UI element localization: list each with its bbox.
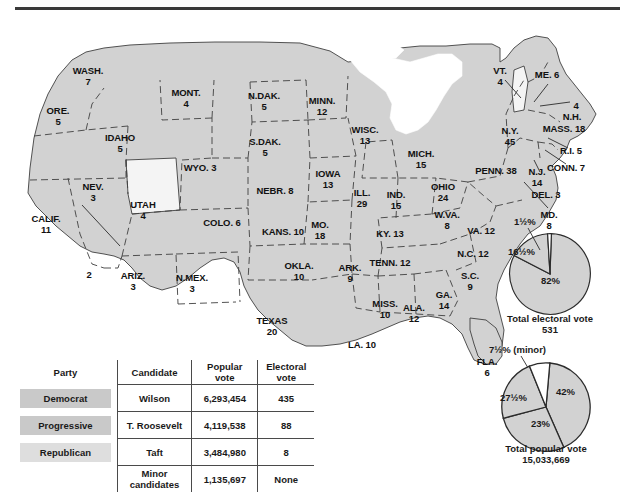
state-label: ORE. 5: [28, 106, 88, 127]
header-party: Party: [14, 360, 117, 385]
election-results-table: Party Candidate Popular vote Electoral v…: [14, 360, 314, 492]
popular-slice-label-taft: 23%: [531, 418, 550, 429]
header-popular-vote: Popular vote: [192, 360, 258, 385]
state-label: R.I. 5: [541, 146, 601, 157]
cell-party: Democrat: [14, 385, 117, 412]
cell-candidate: Taft: [117, 439, 191, 466]
table-row: ProgressiveT. Roosevelt4,119,53888: [14, 412, 314, 439]
popular-slice-label-roosevelt: 27½%: [500, 392, 527, 403]
electoral-pie-total: 531: [542, 324, 558, 335]
state-label: N.C. 12: [443, 249, 503, 260]
popular-slice-label-minor: 7½% (minor): [489, 344, 546, 355]
state-label: WASH. 7: [58, 66, 118, 87]
state-label: OHIO 24: [413, 182, 473, 203]
popular-slice-label-wilson: 42%: [556, 386, 575, 397]
state-label: UTAH 4: [113, 200, 173, 221]
state-label: S.DAK. 5: [235, 137, 295, 158]
state-label: N.MEX. 3: [162, 273, 222, 294]
party-swatch: Progressive: [20, 416, 111, 435]
state-label: COLO. 6: [192, 218, 252, 229]
cell-candidate: T. Roosevelt: [117, 412, 191, 439]
state-label: VT. 4: [470, 66, 530, 87]
cell-popular-vote: 6,293,454: [192, 385, 258, 412]
header-candidate: Candidate: [117, 360, 191, 385]
state-label: TENN. 12: [360, 258, 420, 269]
cell-electoral-vote: 8: [258, 439, 314, 466]
cell-electoral-vote: 88: [258, 412, 314, 439]
electoral-pie-caption: Total electoral vote 531: [465, 313, 634, 335]
state-label: MINN. 12: [292, 96, 352, 117]
state-label: ARIZ. 3: [103, 271, 163, 292]
cell-party: Republican: [14, 439, 117, 466]
party-swatch: Republican: [20, 443, 111, 462]
cell-electoral-vote: None: [258, 466, 314, 492]
state-label: MONT. 4: [156, 88, 216, 109]
state-label: N.DAK. 5: [234, 91, 294, 112]
state-label: 4: [546, 101, 606, 112]
cell-popular-vote: 4,119,538: [192, 412, 258, 439]
state-label: CONN. 7: [536, 163, 596, 174]
top-divider-rule: [15, 7, 620, 10]
state-label: S.C. 9: [440, 271, 500, 292]
state-label: WISC. 13: [335, 125, 395, 146]
table-row: DemocratWilson6,293,454435: [14, 385, 314, 412]
electoral-slice-label-1: 1½%: [514, 216, 536, 227]
state-label: N.Y. 45: [480, 126, 540, 147]
table-row: RepublicanTaft3,484,9808: [14, 439, 314, 466]
electoral-pie-title: Total electoral vote: [507, 313, 593, 324]
state-label: GA. 14: [414, 290, 474, 311]
cell-popular-vote: 3,484,980: [192, 439, 258, 466]
popular-pie-caption: Total popular vote 15,033,669: [461, 443, 631, 465]
party-swatch: Democrat: [20, 389, 111, 408]
state-label: LA. 10: [332, 340, 392, 351]
popular-pie-title: Total popular vote: [505, 443, 587, 454]
cell-party: Progressive: [14, 412, 117, 439]
state-label: TEXAS 20: [242, 316, 302, 337]
cell-popular-vote: 1,135,697: [192, 466, 258, 492]
state-label: MO. 18: [290, 220, 350, 241]
cell-candidate: Wilson: [117, 385, 191, 412]
state-label: N.H.: [542, 112, 602, 123]
state-label: MASS. 18: [534, 124, 594, 135]
state-label: NEBR. 8: [245, 186, 305, 197]
state-label: KY. 13: [360, 229, 420, 240]
state-label: W.VA. 8: [417, 210, 477, 231]
state-label: DEL. 3: [516, 190, 576, 201]
state-label: IDAHO 5: [90, 133, 150, 154]
cell-candidate: Minor candidates: [117, 466, 191, 492]
state-label: CALIF. 11: [16, 214, 76, 235]
table-row: Minor candidates1,135,697None: [14, 466, 314, 492]
electoral-slice-label-3: 82%: [541, 275, 560, 286]
state-label: WYO. 3: [170, 163, 230, 174]
electoral-slice-label-2: 16½%: [508, 246, 535, 257]
state-label: IOWA 13: [298, 169, 358, 190]
cell-electoral-vote: 435: [258, 385, 314, 412]
cell-party: [14, 466, 117, 492]
header-electoral-vote: Electoral vote: [258, 360, 314, 385]
table-header-row: Party Candidate Popular vote Electoral v…: [14, 360, 314, 385]
state-label: MICH. 15: [391, 149, 451, 170]
popular-pie-svg: [500, 361, 592, 453]
popular-pie-total: 15,033,669: [522, 454, 570, 465]
electoral-pie-svg: [508, 232, 592, 316]
